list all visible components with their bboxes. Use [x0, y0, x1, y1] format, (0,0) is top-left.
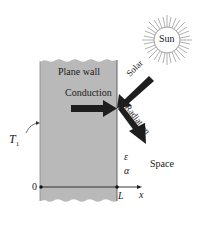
- wall-label: Plane wall: [58, 67, 100, 77]
- sun-label: Sun: [159, 34, 175, 44]
- emissivity-symbol: ε: [124, 152, 128, 162]
- space-label: Space: [150, 159, 174, 169]
- temperature-subscript: 1: [16, 140, 20, 148]
- temperature-symbol: T: [9, 132, 16, 146]
- axis-end-label: L: [118, 191, 124, 201]
- plane-wall: [40, 59, 117, 202]
- absorptivity-symbol: α: [124, 166, 129, 176]
- solar-arrow-icon: [117, 76, 154, 108]
- axis-origin-label: 0: [32, 182, 37, 192]
- conduction-label: Conduction: [65, 88, 112, 98]
- axis-var-label: x: [139, 190, 143, 200]
- temperature-label: T1: [9, 133, 19, 148]
